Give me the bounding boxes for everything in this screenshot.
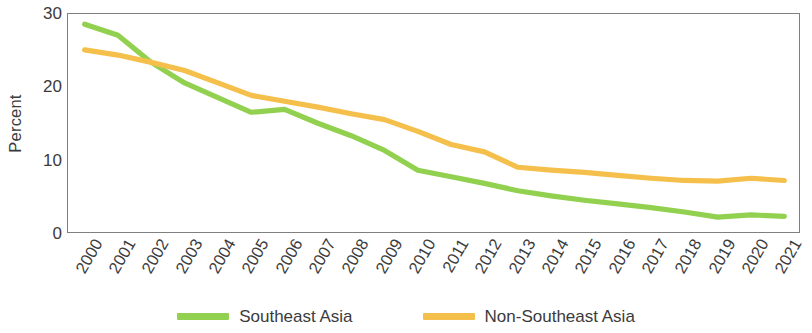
x-axis-tick-label: 2015 — [572, 236, 605, 276]
legend-swatch-icon — [423, 313, 475, 320]
x-axis-tick-label: 2005 — [239, 236, 272, 276]
legend-label: Non-Southeast Asia — [485, 307, 635, 327]
x-axis-tick-label: 2012 — [472, 236, 505, 276]
x-axis-tick-label: 2011 — [439, 236, 471, 275]
x-axis-tick-label: 2003 — [172, 236, 205, 276]
x-axis-tick-label: 2014 — [539, 236, 572, 276]
legend-item[interactable]: Southeast Asia — [177, 307, 352, 327]
x-axis-tick-label: 2010 — [405, 236, 438, 276]
series-line — [85, 24, 785, 217]
x-axis-tick-label: 2008 — [339, 236, 372, 276]
x-axis-tick-label: 2019 — [705, 236, 738, 276]
x-axis-tick-label: 2018 — [672, 236, 705, 276]
y-axis-tick-label: 30 — [26, 5, 62, 22]
line-chart-figure: Percent 0102030 200020012002200320042005… — [0, 0, 812, 333]
x-axis-tick-label: 2001 — [106, 236, 139, 276]
x-axis-tick-label: 2021 — [772, 236, 805, 276]
x-axis-tick-label: 2020 — [739, 236, 772, 276]
x-axis-tick-label: 2009 — [372, 236, 405, 276]
x-axis-tick-label: 2007 — [306, 236, 339, 276]
x-axis-tick-label: 2000 — [72, 236, 105, 276]
series-lines — [67, 13, 802, 235]
chart-legend: Southeast AsiaNon-Southeast Asia — [0, 300, 812, 333]
plot-area — [67, 13, 800, 233]
legend-label: Southeast Asia — [239, 307, 352, 327]
x-axis-tick-label: 2002 — [139, 236, 172, 276]
y-axis-tick-label: 20 — [26, 78, 62, 95]
x-axis-tick-label: 2006 — [272, 236, 305, 276]
x-axis-tick-label: 2016 — [605, 236, 638, 276]
y-axis-tick-label: 0 — [26, 225, 62, 242]
legend-swatch-icon — [177, 313, 229, 320]
x-axis-tick-label: 2013 — [505, 236, 538, 276]
x-axis-tick-label: 2017 — [639, 236, 672, 276]
legend-item[interactable]: Non-Southeast Asia — [423, 307, 635, 327]
x-axis-tick-labels: 2000200120022003200420052006200720082009… — [67, 236, 800, 296]
series-line — [85, 50, 785, 181]
y-axis-tick-labels: 0102030 — [22, 0, 62, 246]
y-axis-tick-label: 10 — [26, 151, 62, 168]
x-axis-tick-label: 2004 — [206, 236, 239, 276]
